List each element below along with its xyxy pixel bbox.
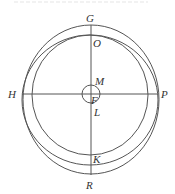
inner-circle: [32, 35, 148, 155]
label-L: L: [93, 106, 100, 118]
label-O: O: [93, 37, 101, 49]
label-P: P: [160, 88, 168, 100]
label-M: M: [94, 75, 105, 87]
label-G: G: [86, 12, 94, 24]
label-K: K: [92, 153, 101, 165]
label-H: H: [7, 88, 17, 100]
middle-circle: [22, 35, 158, 165]
label-R: R: [85, 179, 93, 191]
label-F: F: [90, 94, 98, 106]
circle-diagram: G O M H P F L K R: [0, 0, 175, 194]
